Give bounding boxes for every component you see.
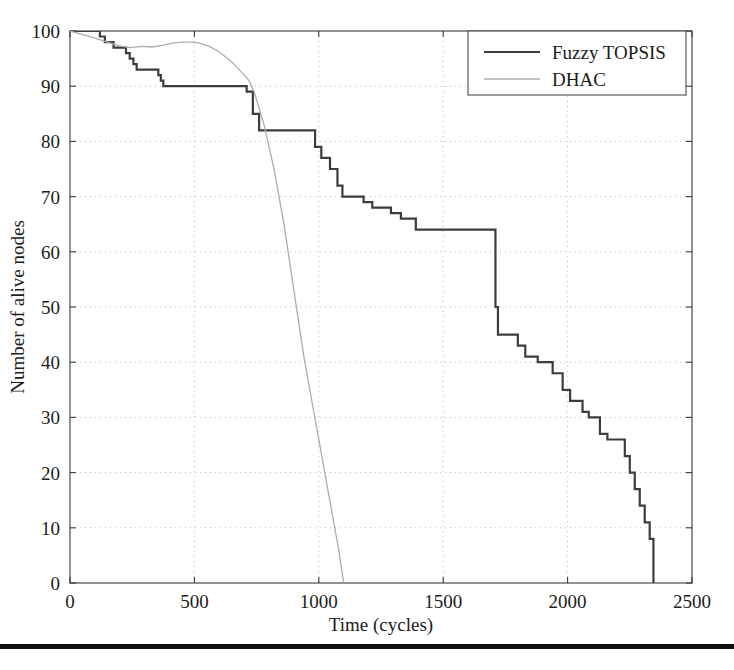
y-tick-label: 40: [41, 352, 60, 373]
y-tick-label: 100: [32, 21, 61, 42]
y-tick-label: 70: [41, 187, 60, 208]
chart-background: [0, 0, 734, 644]
legend-label-fuzzy-topsis: Fuzzy TOPSIS: [552, 42, 666, 63]
y-tick-label: 60: [41, 242, 60, 263]
x-tick-label: 2500: [673, 591, 711, 612]
y-tick-label: 10: [41, 518, 60, 539]
legend: Fuzzy TOPSIS DHAC: [468, 31, 686, 95]
y-tick-label: 80: [41, 131, 60, 152]
x-tick-label: 2000: [549, 591, 587, 612]
y-tick-label: 30: [41, 407, 60, 428]
page-footer-space: [0, 649, 734, 670]
y-tick-label: 0: [51, 573, 61, 594]
y-tick-label: 20: [41, 463, 60, 484]
x-axis-title: Time (cycles): [329, 614, 433, 636]
alive-nodes-line-chart: 05001000150020002500 0102030405060708090…: [0, 0, 734, 644]
figure-container: 05001000150020002500 0102030405060708090…: [0, 0, 734, 644]
x-tick-label: 1000: [300, 591, 338, 612]
y-axis-title: Number of alive nodes: [7, 220, 28, 394]
x-tick-label: 0: [65, 591, 75, 612]
y-tick-label: 90: [41, 76, 60, 97]
x-tick-label: 500: [180, 591, 209, 612]
legend-label-dhac: DHAC: [552, 69, 606, 90]
x-tick-label: 1500: [424, 591, 462, 612]
y-tick-label: 50: [41, 297, 60, 318]
